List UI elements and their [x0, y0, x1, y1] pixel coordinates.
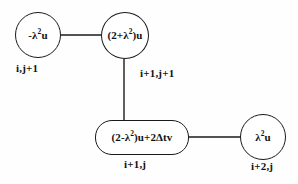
stencil-node-iplus1-jplus1[interactable]: (2+λ2)u: [101, 12, 149, 59]
node-expression: λ2u: [255, 132, 271, 143]
node-expression: (2-λ2)u+2Δtv: [112, 132, 173, 143]
index-label-iplus1-jplus1: i+1,j+1: [140, 68, 174, 79]
diagram-canvas: -λ2u (2+λ2)u (2-λ2)u+2Δtv λ2u i,j+1 i+1,…: [0, 0, 298, 184]
index-label-i-jplus1: i,j+1: [16, 63, 38, 74]
node-expression: (2+λ2)u: [107, 30, 142, 41]
node-expression: -λ2u: [28, 30, 47, 41]
index-label-iplus2-j: i+2,j: [251, 161, 273, 172]
stencil-node-iplus2-j[interactable]: λ2u: [240, 114, 286, 160]
index-label-iplus1-j: i+1,j: [124, 159, 146, 170]
stencil-node-i-jplus1[interactable]: -λ2u: [15, 12, 61, 58]
stencil-node-iplus1-j[interactable]: (2-λ2)u+2Δtv: [95, 120, 189, 155]
